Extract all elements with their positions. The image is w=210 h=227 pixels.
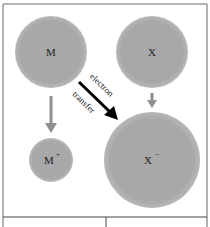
atom-m: M — [15, 16, 87, 88]
atom-x-label: X — [148, 46, 156, 58]
arrow-head-icon — [147, 100, 157, 108]
diagram-figure: M X M + X − — [0, 0, 210, 227]
ion-m-plus-label: M — [44, 154, 54, 166]
transfer-label: transfer — [71, 89, 98, 115]
arrow-m-to-m-plus — [45, 96, 57, 133]
ion-x-minus-charge: − — [155, 150, 160, 159]
atom-m-label: M — [46, 46, 56, 58]
arrow-x-to-x-minus — [147, 93, 157, 108]
ion-m-plus-charge: + — [56, 151, 60, 159]
electron-transfer-arrow: electron transfer — [71, 71, 118, 120]
arrow-head-icon — [45, 123, 57, 133]
ion-m-plus: M + — [29, 138, 73, 182]
ion-x-minus-label: X — [144, 154, 152, 166]
ion-x-minus: X − — [104, 112, 200, 208]
atom-x: X — [116, 16, 188, 88]
